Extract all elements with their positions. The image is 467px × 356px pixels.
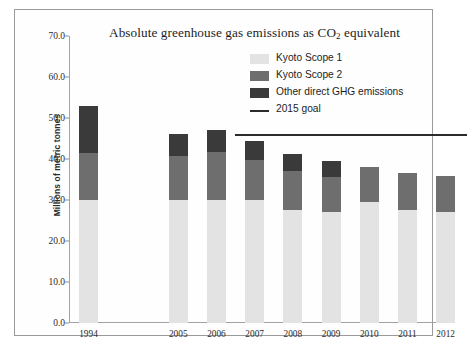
bar-segment xyxy=(436,212,455,323)
y-tick-label: 30.0 xyxy=(48,195,65,205)
bar-segment xyxy=(283,154,302,172)
y-tick-label: 10.0 xyxy=(48,277,65,287)
legend-label: Other direct GHG emissions xyxy=(276,86,403,98)
y-axis-title: Millions of metric tonnes xyxy=(52,85,62,245)
bar-segment xyxy=(322,177,341,212)
y-tick-label: 40.0 xyxy=(48,154,65,164)
x-tick-label: 2012 xyxy=(436,329,455,339)
legend-label: Kyoto Scope 1 xyxy=(276,52,342,64)
bar-2010 xyxy=(360,167,379,323)
bar-segment xyxy=(245,160,264,200)
legend-swatch-icon xyxy=(250,88,269,98)
goal-line-annotation xyxy=(235,134,467,136)
bar-segment xyxy=(322,161,341,177)
legend-item: Other direct GHG emissions xyxy=(250,86,440,98)
x-tick-label: 2009 xyxy=(322,329,341,339)
figure-caption xyxy=(14,343,434,356)
bar-segment xyxy=(360,202,379,323)
y-tick-label: 0.0 xyxy=(53,318,65,328)
y-tick-mark xyxy=(65,159,69,160)
bar-segment xyxy=(79,153,98,200)
bar-segment xyxy=(283,210,302,323)
y-tick-label: 50.0 xyxy=(48,113,65,123)
bar-segment xyxy=(322,212,341,323)
x-tick-label: 2006 xyxy=(207,329,226,339)
legend: Kyoto Scope 1Kyoto Scope 2Other direct G… xyxy=(250,52,440,120)
y-tick-mark xyxy=(65,282,69,283)
bar-segment xyxy=(79,106,98,153)
legend-label: Kyoto Scope 2 xyxy=(276,69,342,81)
y-tick-mark xyxy=(65,36,69,37)
x-tick-label: 2008 xyxy=(284,329,303,339)
x-tick-label: 1994 xyxy=(79,329,98,339)
bar-1994 xyxy=(79,106,98,323)
legend-label: 2015 goal xyxy=(276,103,321,115)
bar-segment xyxy=(207,130,226,152)
bar-segment xyxy=(169,134,188,155)
bar-segment xyxy=(79,200,98,323)
bar-segment xyxy=(245,141,264,160)
bar-segment xyxy=(398,210,417,323)
x-tick-label: 2005 xyxy=(169,329,188,339)
bar-segment xyxy=(283,171,302,210)
bar-segment xyxy=(207,152,226,200)
bar-segment xyxy=(207,200,226,323)
bar-2005 xyxy=(169,134,188,323)
bar-2008 xyxy=(283,154,302,323)
x-tick-label: 2007 xyxy=(245,329,264,339)
bar-segment xyxy=(436,176,455,212)
bar-2006 xyxy=(207,129,226,323)
bar-segment xyxy=(398,173,417,211)
bar-2011 xyxy=(398,173,417,323)
y-tick-mark xyxy=(65,118,69,119)
y-tick-mark xyxy=(65,241,69,242)
legend-item: Kyoto Scope 1 xyxy=(250,52,440,64)
bar-segment xyxy=(169,156,188,200)
x-tick-label: 2011 xyxy=(398,329,416,339)
bar-2012 xyxy=(436,176,455,323)
y-axis-line xyxy=(69,36,70,323)
y-tick-mark xyxy=(65,323,69,324)
x-tick-label: 2010 xyxy=(360,329,379,339)
bar-segment xyxy=(169,200,188,323)
figure-plate: Millions of metric tonnes Absolute green… xyxy=(14,9,433,336)
bar-segment xyxy=(360,167,379,202)
y-tick-mark xyxy=(65,200,69,201)
y-tick-label: 70.0 xyxy=(48,31,65,41)
bar-2007 xyxy=(245,141,264,323)
bar-2009 xyxy=(322,161,341,323)
legend-line-icon xyxy=(250,105,269,115)
legend-item: 2015 goal xyxy=(250,103,440,115)
legend-item: Kyoto Scope 2 xyxy=(250,69,440,81)
y-tick-label: 60.0 xyxy=(48,72,65,82)
legend-swatch-icon xyxy=(250,71,269,81)
bar-segment xyxy=(245,200,264,323)
legend-swatch-icon xyxy=(250,54,269,64)
y-tick-label: 20.0 xyxy=(48,236,65,246)
y-tick-mark xyxy=(65,77,69,78)
